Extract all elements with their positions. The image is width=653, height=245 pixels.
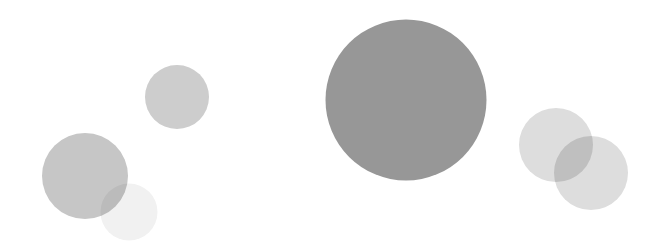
bubble-chart — [0, 0, 653, 245]
bubble-upper-left — [145, 65, 209, 129]
bubble-layer — [0, 0, 653, 245]
bubble-left-pale — [101, 184, 158, 241]
bubble-right-lower — [554, 136, 628, 210]
bubble-center-large — [326, 20, 487, 181]
